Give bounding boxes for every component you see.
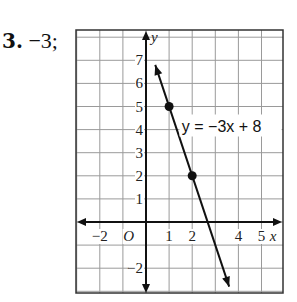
x-tick-label: 1 bbox=[165, 228, 173, 244]
x-tick-label: −2 bbox=[92, 228, 108, 244]
x-tick-label: 4 bbox=[235, 228, 243, 244]
origin-label: O bbox=[123, 228, 134, 244]
y-axis-label: y bbox=[149, 29, 158, 45]
y-tick-label: 3 bbox=[136, 145, 144, 161]
equation-label: y = −3x + 8 bbox=[182, 118, 262, 135]
line-arrow-up bbox=[155, 65, 163, 76]
y-tick-label: −2 bbox=[127, 260, 143, 276]
line-arrow-down bbox=[222, 276, 230, 287]
y-tick-label: 7 bbox=[136, 52, 144, 68]
x-tick-label: 2 bbox=[188, 228, 196, 244]
y-tick-label: 1 bbox=[136, 191, 144, 207]
x-axis-label: x bbox=[269, 228, 277, 244]
plotted-point bbox=[165, 102, 174, 111]
y-tick-label: 5 bbox=[136, 99, 144, 115]
x-axis-arrow-left bbox=[77, 218, 86, 226]
plotted-point bbox=[188, 171, 197, 180]
y-tick-label: 2 bbox=[136, 168, 144, 184]
graph-border bbox=[76, 30, 283, 293]
y-tick-label: 4 bbox=[136, 122, 144, 138]
x-tick-label: 5 bbox=[258, 228, 266, 244]
y-tick-label: 6 bbox=[136, 75, 144, 91]
x-axis-arrow-right bbox=[273, 218, 282, 226]
y-axis-arrow-up bbox=[142, 31, 150, 40]
coordinate-graph: −212457654321−2Oxy y = −3x + 8 bbox=[0, 0, 297, 302]
